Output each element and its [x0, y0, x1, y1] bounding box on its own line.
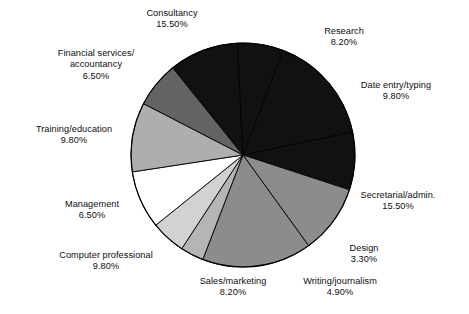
- pie-label-design-value: 3.30%: [318, 254, 410, 265]
- pie-label-sales-marketing-name: Sales/marketing: [176, 276, 290, 287]
- pie-label-date-entry-typing: Date entry/typing 9.80%: [330, 80, 462, 103]
- pie-label-computer-professional-value: 9.80%: [26, 261, 186, 272]
- pie-label-training-education-value: 9.80%: [6, 135, 142, 146]
- pie-label-consultancy-value: 15.50%: [112, 19, 232, 30]
- pie-label-sales-marketing-value: 8.20%: [176, 287, 290, 298]
- pie-chart-figure: Consultancy 15.50% Research 8.20% Date e…: [0, 0, 469, 314]
- pie-label-management-value: 6.50%: [32, 210, 152, 221]
- pie-label-financial-services-accountancy-value: 6.50%: [22, 71, 170, 82]
- pie-label-writing-journalism-name: Writing/journalism: [278, 276, 402, 287]
- pie-label-date-entry-typing-name: Date entry/typing: [330, 80, 462, 91]
- pie-label-date-entry-typing-value: 9.80%: [330, 91, 462, 102]
- pie-label-writing-journalism: Writing/journalism 4.90%: [278, 276, 402, 299]
- pie-label-secretarial-admin-value: 15.50%: [330, 201, 466, 212]
- pie-label-computer-professional-name: Computer professional: [26, 250, 186, 261]
- pie-label-financial-services-accountancy-name-line1: Financial services/: [22, 48, 170, 59]
- pie-label-training-education-name: Training/education: [6, 124, 142, 135]
- pie-label-sales-marketing: Sales/marketing 8.20%: [176, 276, 290, 299]
- pie-label-consultancy-name: Consultancy: [112, 8, 232, 19]
- pie-label-financial-services-accountancy-name-line2: accountancy: [22, 59, 170, 70]
- pie-label-consultancy: Consultancy 15.50%: [112, 8, 232, 31]
- pie-label-management-name: Management: [32, 199, 152, 210]
- pie-label-writing-journalism-value: 4.90%: [278, 287, 402, 298]
- pie-label-training-education: Training/education 9.80%: [6, 124, 142, 147]
- pie-label-management: Management 6.50%: [32, 199, 152, 222]
- pie-label-financial-services-accountancy: Financial services/ accountancy 6.50%: [22, 48, 170, 82]
- pie-label-secretarial-admin: Secretarial/admin. 15.50%: [330, 190, 466, 213]
- pie-label-computer-professional: Computer professional 9.80%: [26, 250, 186, 273]
- pie-label-design-name: Design: [318, 243, 410, 254]
- pie-label-research: Research 8.20%: [294, 26, 394, 49]
- pie-label-research-value: 8.20%: [294, 37, 394, 48]
- pie-label-secretarial-admin-name: Secretarial/admin.: [330, 190, 466, 201]
- pie-label-design: Design 3.30%: [318, 243, 410, 266]
- pie-label-research-name: Research: [294, 26, 394, 37]
